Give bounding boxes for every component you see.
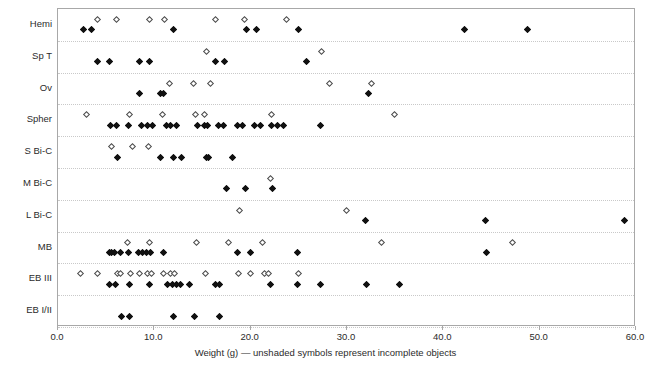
data-point-open <box>236 207 243 214</box>
data-point-open <box>235 270 242 277</box>
gridline <box>58 73 634 74</box>
data-point-filled <box>191 313 198 320</box>
data-point-open <box>203 48 210 55</box>
data-point-open <box>190 79 197 86</box>
data-point-open <box>267 175 274 182</box>
data-point-open <box>259 238 266 245</box>
data-point-open <box>161 16 168 23</box>
data-point-filled <box>117 249 124 256</box>
data-point-filled <box>178 154 185 161</box>
data-point-filled <box>136 58 143 65</box>
data-point-filled <box>461 26 468 33</box>
gridline <box>58 104 634 105</box>
data-point-filled <box>173 122 180 129</box>
data-point-filled <box>170 154 177 161</box>
category-label-mb: MB <box>38 242 52 252</box>
data-point-filled <box>212 58 219 65</box>
data-point-filled <box>395 281 402 288</box>
data-point-filled <box>106 58 113 65</box>
data-point-open <box>192 111 199 118</box>
data-point-open <box>247 270 254 277</box>
data-point-filled <box>303 58 310 65</box>
data-point-filled <box>146 58 153 65</box>
data-point-open <box>83 111 90 118</box>
data-point-open <box>146 16 153 23</box>
data-point-open <box>368 79 375 86</box>
x-tick-label: 20.0 <box>240 331 259 342</box>
data-point-filled <box>79 26 86 33</box>
data-point-filled <box>365 90 372 97</box>
gridline <box>58 263 634 264</box>
data-point-filled <box>257 122 264 129</box>
category-label-m-bi-c: M Bi-C <box>23 178 52 188</box>
gridline <box>58 295 634 296</box>
data-point-filled <box>242 185 249 192</box>
data-point-open <box>342 207 349 214</box>
data-point-open <box>108 143 115 150</box>
data-point-filled <box>146 281 153 288</box>
data-point-filled <box>125 122 132 129</box>
data-point-open <box>212 16 219 23</box>
data-point-open <box>295 270 302 277</box>
gridline <box>58 41 634 42</box>
category-label-s-bi-c: S Bi-C <box>25 146 52 156</box>
data-point-filled <box>126 281 133 288</box>
data-point-filled <box>94 58 101 65</box>
gridline <box>58 136 634 137</box>
data-point-filled <box>125 249 132 256</box>
data-point-filled <box>363 281 370 288</box>
data-point-filled <box>136 90 143 97</box>
data-point-filled <box>294 281 301 288</box>
data-point-open <box>146 238 153 245</box>
data-point-open <box>391 111 398 118</box>
data-point-filled <box>170 313 177 320</box>
x-tick-label: 50.0 <box>529 331 548 342</box>
data-point-open <box>124 238 131 245</box>
data-point-filled <box>126 313 133 320</box>
data-point-open <box>193 238 200 245</box>
data-point-open <box>113 16 120 23</box>
data-point-filled <box>88 26 95 33</box>
x-tick-label: 40.0 <box>433 331 452 342</box>
data-point-filled <box>524 26 531 33</box>
x-tick <box>250 326 251 330</box>
data-point-open <box>94 270 101 277</box>
data-point-open <box>283 16 290 23</box>
chart-canvas: HemiSp TOvSpherS Bi-CM Bi-CL Bi-CMBEB II… <box>0 0 651 366</box>
data-point-filled <box>114 154 121 161</box>
data-point-filled <box>621 217 628 224</box>
data-point-open <box>94 16 101 23</box>
data-point-open <box>77 270 84 277</box>
data-point-filled <box>160 90 167 97</box>
data-point-filled <box>177 281 184 288</box>
data-point-filled <box>229 154 236 161</box>
data-point-filled <box>482 217 489 224</box>
data-point-open <box>509 238 516 245</box>
data-point-filled <box>317 122 324 129</box>
data-point-filled <box>113 122 120 129</box>
x-axis-title: Weight (g) — unshaded symbols represent … <box>0 347 651 358</box>
x-tick-label: 60.0 <box>626 331 645 342</box>
x-tick <box>346 326 347 330</box>
category-label-spher: Spher <box>27 114 52 124</box>
data-point-filled <box>253 26 260 33</box>
data-point-open <box>318 48 325 55</box>
category-label-ov: Ov <box>40 83 52 93</box>
data-point-open <box>202 270 209 277</box>
data-point-open <box>148 270 155 277</box>
data-point-filled <box>220 122 227 129</box>
gridline <box>58 232 634 233</box>
data-point-filled <box>216 281 223 288</box>
data-point-filled <box>149 122 156 129</box>
data-point-filled <box>221 58 228 65</box>
category-axis-labels: HemiSp TOvSpherS Bi-CM Bi-CL Bi-CMBEB II… <box>0 0 52 366</box>
x-tick-label: 0.0 <box>50 331 63 342</box>
data-point-open <box>171 270 178 277</box>
data-point-filled <box>170 26 177 33</box>
data-point-filled <box>317 281 324 288</box>
data-point-open <box>268 111 275 118</box>
data-point-filled <box>160 249 167 256</box>
data-point-filled <box>157 154 164 161</box>
plot-area <box>57 8 635 326</box>
data-point-filled <box>234 249 241 256</box>
